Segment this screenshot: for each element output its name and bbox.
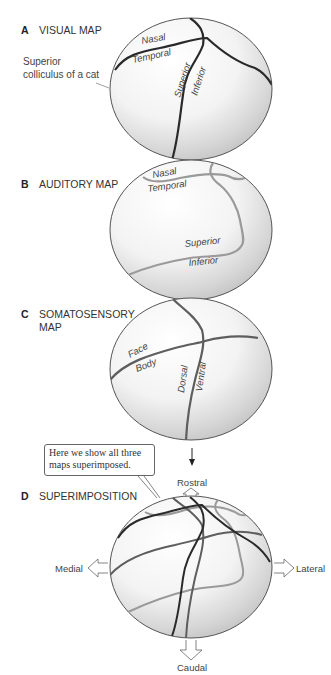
panel-a-title: VISUAL MAP	[39, 24, 102, 36]
callout-line-1: Here we show all three	[49, 447, 150, 459]
medial-arrow-icon	[88, 559, 108, 577]
panel-d-title: SUPERIMPOSITION	[39, 490, 137, 502]
panel-c-letter: C	[21, 308, 29, 320]
leader-line	[96, 83, 109, 88]
callout-tail	[138, 476, 160, 498]
superior-colliculus-diagram: A VISUAL MAP Superior colliculus of a ca…	[0, 0, 331, 675]
caudal-label: Caudal	[177, 662, 207, 673]
medial-label: Medial	[55, 563, 83, 574]
panel-b-auditory-map: B AUDITORY MAP Nasal Temporal Superior I…	[21, 160, 272, 300]
panel-d-superimposition: D SUPERIMPOSITION Rostral Medial Lateral…	[21, 476, 325, 673]
panel-a-letter: A	[21, 24, 29, 36]
panel-a-visual-map: A VISUAL MAP Superior colliculus of a ca…	[21, 18, 272, 160]
down-arrow-icon	[189, 448, 195, 466]
panel-c-title-1: SOMATOSENSORY	[39, 308, 135, 320]
rostral-label: Rostral	[177, 477, 207, 488]
sphere-c	[110, 298, 272, 440]
colliculus-label: colliculus of a cat	[23, 69, 99, 80]
lateral-arrow-icon	[274, 559, 294, 577]
superior-label: Superior	[23, 56, 61, 67]
sphere-d	[110, 496, 272, 638]
lateral-label: Lateral	[296, 563, 325, 574]
panel-b-title: AUDITORY MAP	[39, 178, 118, 190]
panel-c-title-2: MAP	[39, 321, 62, 333]
panel-b-letter: B	[21, 178, 29, 190]
callout-box: Here we show all three maps superimposed…	[44, 444, 155, 476]
sphere-b	[110, 160, 272, 300]
callout-line-2: maps superimposed.	[49, 459, 150, 471]
panel-d-letter: D	[21, 490, 29, 502]
panel-c-somatosensory-map: C SOMATOSENSORY MAP Face Body Dorsal Ven…	[21, 298, 272, 440]
caudal-arrow-icon	[180, 640, 202, 660]
